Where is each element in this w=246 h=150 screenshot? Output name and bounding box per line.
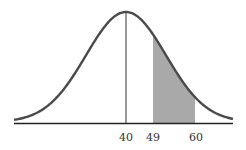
tick-label-mean: 40 [119,131,133,144]
bell-curve [14,12,233,120]
tick-label-lower: 49 [146,131,160,144]
normal-distribution-chart: 40 49 60 [0,0,246,150]
tick-label-upper: 60 [189,131,203,144]
shaded-region [153,34,195,123]
